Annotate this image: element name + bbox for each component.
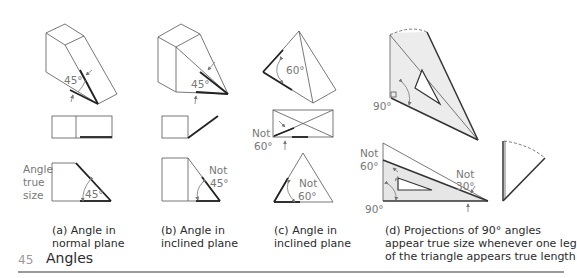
panel-a-side-label-3: size — [23, 189, 43, 202]
panel-b-angle-label: 45° — [191, 78, 210, 91]
panel-a-side-label-2: true — [23, 176, 45, 189]
panel-a-angle-label: 45° — [64, 74, 83, 87]
panel-d-caption-line-3: of the triangle appears true length — [385, 250, 576, 264]
panel-c-caption-line-2: inclined plane — [274, 237, 351, 251]
panel-c-top-not-label-1: Not — [252, 127, 270, 140]
panel-a-top-view — [52, 116, 112, 138]
panel-c-top-view — [273, 110, 333, 150]
panel-d-caption-line-2: appear true size whenever one leg — [385, 237, 577, 251]
panel-d-not-label-left-2: 60° — [360, 160, 379, 173]
panel-c-front-not-label-1: Not — [299, 177, 317, 190]
panel-b-caption-line-2: inclined plane — [161, 237, 238, 251]
panel-c-caption-line-1: (c) Angle in — [274, 224, 337, 238]
panel-c-top-not-label-2: 60° — [254, 140, 273, 153]
panel-a-true-angle-label: 45° — [85, 188, 104, 201]
panel-d-side-view — [503, 141, 545, 201]
panel-b-not-label-2: 45° — [210, 177, 229, 190]
panel-d-caption-line-1: (d) Projections of 90° angles — [385, 224, 541, 238]
bottom-rule — [18, 271, 564, 273]
panel-c-angle-label: 60° — [286, 64, 305, 77]
panel-a-pictorial — [46, 24, 117, 104]
figure-title: Angles — [46, 250, 93, 266]
panel-d-angle-label-top: 90° — [373, 100, 392, 113]
panel-d-not-label-right-2: 30° — [456, 180, 475, 193]
panel-b-caption-line-1: (b) Angle in — [161, 224, 225, 238]
panel-d-pictorial — [390, 29, 478, 140]
panel-b-not-label-1: Not — [209, 164, 227, 177]
panel-b-pictorial — [158, 24, 228, 104]
panel-d-angle-label-bottom: 90° — [365, 203, 384, 216]
panel-b-top-view — [162, 116, 218, 138]
panel-c-front-not-label-2: 60° — [298, 190, 317, 203]
panel-d-not-label-left-1: Not — [360, 147, 378, 160]
panel-a-caption-line-2: normal plane — [52, 237, 125, 251]
figure-number: 45 — [18, 253, 33, 267]
panel-a-side-label-1: Angle — [23, 163, 53, 176]
panel-a-caption-line-1: (a) Angle in — [52, 224, 116, 238]
